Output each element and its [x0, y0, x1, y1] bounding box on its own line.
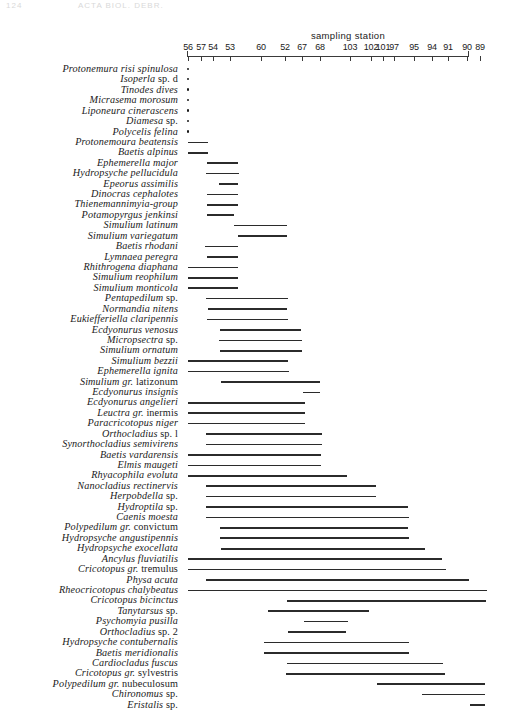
range-bar: [188, 360, 288, 362]
range-bar: [206, 517, 409, 519]
range-bar: [207, 214, 234, 216]
range-bar: [207, 204, 238, 206]
range-bar: [234, 225, 287, 227]
axis-tick-label-52: 52: [280, 42, 290, 52]
range-bar: [206, 173, 239, 175]
axis-tick-mark-103: [350, 56, 351, 61]
range-bar: [188, 475, 347, 477]
range-bar: [188, 465, 321, 467]
range-bar: [219, 183, 238, 185]
range-bar: [205, 246, 238, 248]
axis-tick-label-68: 68: [315, 42, 325, 52]
axis-tick-mark-57: [201, 56, 202, 61]
axis-tick-mark-68: [320, 56, 321, 61]
range-bar: [188, 402, 305, 404]
axis-title: sampling station: [180, 30, 516, 41]
range-bar: [188, 569, 446, 571]
axis-tick-mark-52: [285, 56, 286, 61]
range-bar: [206, 496, 376, 498]
range-bar: [207, 194, 238, 196]
range-bar: [188, 371, 289, 373]
range-bar: [188, 152, 208, 154]
range-bar: [188, 267, 238, 269]
range-bar: [268, 610, 369, 612]
axis-tick-label-90: 90: [462, 42, 472, 52]
range-bar: [220, 350, 302, 352]
axis-tick-mark-60: [261, 56, 262, 61]
range-bar: [220, 527, 408, 529]
axis-tick-label-91: 91: [443, 42, 453, 52]
range-bar: [188, 142, 208, 144]
range-bar: [206, 579, 469, 581]
range-bar: [206, 298, 288, 300]
range-bar: [207, 162, 238, 164]
range-dot: [187, 120, 189, 122]
axis-tick-label-54: 54: [208, 42, 218, 52]
range-bar: [286, 673, 445, 675]
range-bar: [188, 277, 238, 279]
axis-tick-mark-89: [480, 56, 481, 61]
axis-cap-right: [468, 51, 469, 57]
range-bar: [422, 694, 485, 696]
range-bar: [188, 287, 238, 289]
range-bar: [206, 506, 408, 508]
axis-tick-label-67: 67: [297, 42, 307, 52]
range-bar: [288, 631, 346, 633]
axis-tick-mark-90: [467, 56, 468, 61]
range-bar: [303, 392, 320, 394]
range-bar: [207, 319, 288, 321]
axis-tick-label-95: 95: [409, 42, 419, 52]
range-dot: [187, 68, 189, 70]
range-bar: [220, 537, 409, 539]
axis-tick-label-56: 56: [183, 42, 193, 52]
range-bar: [206, 485, 376, 487]
species-name-italic: Eristalis: [127, 699, 163, 710]
axis-tick-label-102: 102: [364, 42, 378, 52]
range-bar: [208, 308, 287, 310]
axis-tick-mark-101: [383, 56, 384, 61]
species-row[interactable]: Eristalis sp.: [0, 698, 516, 711]
range-dot: [187, 130, 189, 132]
range-bar: [188, 454, 321, 456]
axis-tick-mark-54: [213, 56, 214, 61]
axis-tick-label-57: 57: [196, 42, 206, 52]
range-bar: [264, 642, 409, 644]
range-bar: [206, 433, 322, 435]
axis-tick-mark-67: [302, 56, 303, 61]
range-bar: [470, 704, 485, 706]
axis-tick-label-53: 53: [225, 42, 235, 52]
range-dot: [187, 109, 189, 111]
axis-tick-label-101: 101: [376, 42, 390, 52]
species-name-qualifier: sp.: [163, 699, 178, 710]
axis-tick-mark-53: [230, 56, 231, 61]
axis-tick-label-103: 103: [343, 42, 357, 52]
range-bar: [221, 548, 425, 550]
axis-tick-mark-102: [371, 56, 372, 61]
axis-tick-mark-56: [188, 56, 189, 61]
axis-tick-label-89: 89: [475, 42, 485, 52]
axis-tick-mark-95: [414, 56, 415, 61]
range-bar: [188, 558, 442, 560]
range-bar: [221, 381, 320, 383]
axis-tick-label-94: 94: [427, 42, 437, 52]
range-bar: [188, 590, 487, 592]
axis-tick-mark-97: [394, 56, 395, 61]
axis-tick-mark-91: [448, 56, 449, 61]
axis-tick-mark-94: [432, 56, 433, 61]
range-dot: [187, 88, 189, 90]
range-bar: [264, 652, 409, 654]
range-dot: [187, 78, 189, 80]
axis-tick-label-60: 60: [256, 42, 266, 52]
range-bar: [304, 621, 348, 623]
range-bar: [287, 663, 443, 665]
axis-cap-left: [187, 51, 188, 57]
range-bar: [220, 329, 301, 331]
range-bar: [188, 423, 305, 425]
species-label: Eristalis sp.: [127, 698, 178, 711]
range-dot: [187, 99, 189, 101]
axis-tick-label-97: 97: [389, 42, 399, 52]
range-bar: [207, 256, 238, 258]
range-bar: [377, 683, 485, 685]
axis-line: [187, 56, 468, 57]
